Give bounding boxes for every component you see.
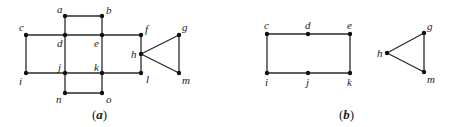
node-h [385,51,389,55]
label-g: g [182,21,188,33]
label-j: j [56,61,61,73]
label-o: o [106,93,112,105]
node-g [422,31,426,35]
label-h: h [377,47,383,59]
label-c: c [19,21,24,33]
label-m: m [182,74,190,86]
node-a [63,14,67,18]
node-i [265,71,269,75]
edge-h-m [141,54,179,73]
node-e [100,33,104,37]
node-k [348,71,352,75]
label-b: b [106,4,112,16]
diagram-b: c d e i j k g h m (b) [264,19,435,122]
node-k [100,71,104,75]
label-e: e [94,37,99,49]
node-g [177,33,181,37]
edge-h-m [387,53,424,72]
label-i: i [265,76,268,88]
diagram-b-nodes [265,31,426,75]
node-l [139,71,143,75]
node-f [139,33,143,37]
node-b [100,14,104,18]
label-l: l [146,73,149,85]
label-h: h [131,48,137,60]
caption-a: (a) [92,107,107,122]
node-n [63,91,67,95]
diagram-b-edges [267,33,424,73]
node-h [139,52,143,56]
node-e [348,32,352,36]
edge-h-g [387,33,424,53]
graph-figure: a b c d e f g h i j k l m n o (a) [0,0,455,127]
label-k: k [94,61,100,73]
label-c: c [264,19,269,31]
node-m [177,71,181,75]
node-d [63,33,67,37]
node-o [100,91,104,95]
label-a: a [57,3,63,15]
label-j: j [304,76,309,88]
diagram-a-labels: a b c d e f g h i j k l m n o [19,3,190,105]
diagram-a-edges [26,16,179,93]
label-n: n [56,93,62,105]
node-m [422,70,426,74]
node-d [306,32,310,36]
node-c [24,33,28,37]
node-j [306,71,310,75]
label-k: k [347,76,353,88]
caption-b: (b) [339,107,354,122]
node-i [24,71,28,75]
label-e: e [347,19,352,31]
label-m: m [427,73,435,85]
diagram-a: a b c d e f g h i j k l m n o (a) [19,3,190,122]
node-j [63,71,67,75]
label-d: d [57,37,63,49]
node-c [265,32,269,36]
label-f: f [145,23,150,35]
edge-h-g [141,35,179,54]
label-d: d [305,19,311,31]
label-i: i [19,75,22,87]
label-g: g [427,20,433,32]
